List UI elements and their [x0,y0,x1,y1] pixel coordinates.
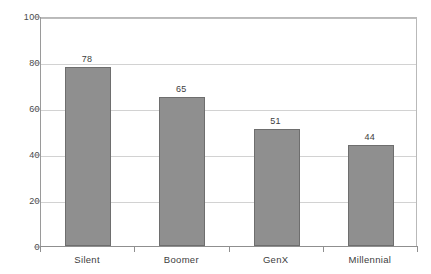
x-axis-category-label: GenX [229,254,323,265]
x-axis-tick-mark [323,247,324,252]
bar-value-label: 44 [340,132,400,142]
x-axis-tick-mark [40,247,41,252]
bar-boomer[interactable] [159,97,205,247]
bar-silent[interactable] [65,67,111,246]
y-axis: 020406080100 [0,0,40,274]
x-axis-category-label: Millennial [323,254,417,265]
bar-millennial[interactable] [348,145,394,246]
bar-value-label: 78 [57,54,117,64]
x-axis-tick-mark [417,247,418,252]
x-axis-category-label: Silent [40,254,134,265]
gridline [41,18,416,19]
bar-value-label: 65 [151,84,211,94]
x-axis-tick-mark [134,247,135,252]
gridline [41,64,416,65]
bar-genx[interactable] [254,129,300,246]
x-axis-category-label: Boomer [134,254,228,265]
bar-value-label: 51 [246,116,306,126]
x-axis-tick-mark [229,247,230,252]
bar-chart: 020406080100 78Silent65Boomer51GenX44Mil… [0,0,431,274]
